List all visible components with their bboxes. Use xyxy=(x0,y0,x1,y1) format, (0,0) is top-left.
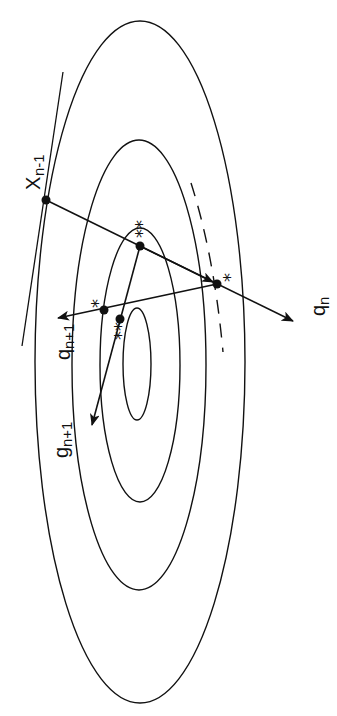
label-gn1: g xyxy=(50,447,72,458)
label-double-star-lower: ** xyxy=(110,322,131,340)
label-qn1-subscript: n+1 xyxy=(60,324,77,349)
contour-outer xyxy=(35,21,245,703)
label-x-prev-subscript: n-1 xyxy=(30,154,47,176)
label-star-right: * xyxy=(219,273,240,282)
label-gn1-subscript: n+1 xyxy=(58,422,75,447)
contour-diagram: X n-1 ** * * ** q n q n+1 g n+1 xyxy=(0,0,337,716)
contour-third xyxy=(100,228,180,502)
point-double-star-upper xyxy=(136,242,145,251)
label-qn-subscript: n xyxy=(315,297,332,305)
point-x-prev xyxy=(42,196,51,205)
contour-second xyxy=(72,140,206,590)
label-star-left: * xyxy=(87,299,108,308)
tangent-line xyxy=(22,72,63,346)
label-qn: q xyxy=(307,305,329,316)
label-x-prev: X xyxy=(22,177,44,190)
search-direction-qn1 xyxy=(58,284,217,318)
segment-to-star xyxy=(140,246,213,282)
label-double-star-upper: ** xyxy=(131,220,152,238)
dashed-contour xyxy=(191,183,223,352)
label-qn1: q xyxy=(52,349,74,360)
